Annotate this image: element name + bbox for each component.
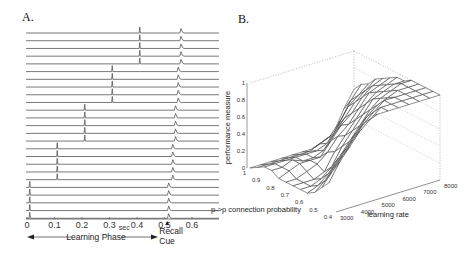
z-tick-label: 0.6 bbox=[237, 114, 246, 120]
learning-rate-axis-label: learning rate bbox=[367, 210, 409, 219]
p-tick-label: 0.5 bbox=[309, 207, 318, 213]
surface-mesh bbox=[250, 77, 440, 193]
p-tick-label: 1 bbox=[243, 170, 247, 176]
learning-rate-axis: 300040005000600070008000learning rate bbox=[336, 180, 458, 221]
z-tick-label: 0.4 bbox=[237, 131, 246, 137]
z-tick-label: 0.8 bbox=[237, 97, 246, 103]
learning-rate-tick-label: 8000 bbox=[444, 183, 458, 189]
p-tick-label: 0.8 bbox=[266, 185, 275, 191]
z-tick-label: 1 bbox=[242, 80, 246, 86]
p-tick-label: 0.9 bbox=[252, 177, 261, 183]
p-tick-label: 0.4 bbox=[324, 214, 333, 220]
z-tick-label: 0.2 bbox=[237, 148, 246, 154]
z-axis: 00.20.40.60.81performance measure bbox=[223, 80, 247, 171]
z-axis-label: performance measure bbox=[223, 91, 232, 164]
learning-rate-tick-label: 3000 bbox=[340, 215, 354, 221]
learning-rate-tick-label: 7000 bbox=[423, 189, 437, 195]
learning-rate-tick-label: 5000 bbox=[382, 202, 396, 208]
learning-rate-tick-label: 6000 bbox=[402, 196, 416, 202]
performance-surface-chart: 00.20.40.60.81performance measure10.90.8… bbox=[0, 0, 475, 253]
p-axis-label: p->p connection probability bbox=[211, 205, 301, 214]
p-tick-label: 0.7 bbox=[281, 192, 290, 198]
